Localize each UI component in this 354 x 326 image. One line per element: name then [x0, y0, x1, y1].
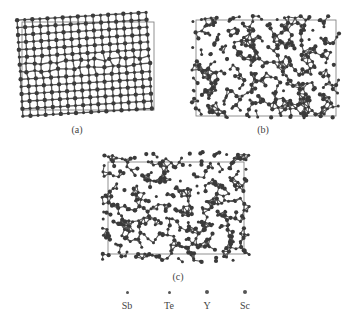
atom	[104, 102, 107, 105]
atom	[54, 31, 57, 34]
atom	[204, 169, 208, 173]
atom	[231, 177, 234, 180]
atom	[107, 20, 110, 23]
atom	[200, 48, 203, 51]
atom	[168, 217, 171, 220]
atom	[309, 73, 312, 76]
atom	[68, 22, 72, 26]
atom	[36, 99, 39, 102]
atom	[301, 73, 304, 76]
atom	[78, 52, 81, 55]
atom	[131, 41, 134, 44]
atom	[302, 50, 305, 53]
atom	[142, 93, 145, 96]
atom	[105, 211, 109, 215]
atom	[210, 201, 214, 205]
atom	[103, 59, 106, 62]
atom	[299, 112, 302, 115]
atom	[319, 36, 322, 39]
atom	[231, 160, 235, 164]
atom	[301, 82, 305, 86]
atom	[84, 21, 88, 25]
atom	[324, 37, 328, 41]
atom	[110, 86, 114, 90]
atom	[27, 77, 30, 80]
atom	[300, 24, 303, 27]
atom	[200, 30, 203, 33]
atom	[236, 156, 240, 160]
atom	[326, 74, 330, 78]
atom	[300, 53, 304, 57]
atom	[287, 15, 290, 18]
te-atom-icon	[168, 291, 171, 294]
atom	[111, 64, 114, 67]
atom	[279, 31, 283, 35]
atom	[233, 183, 237, 187]
atom	[20, 85, 23, 88]
atom	[332, 63, 336, 67]
atom	[229, 89, 233, 93]
atom	[229, 33, 233, 37]
atom	[132, 187, 136, 191]
atom	[301, 58, 304, 61]
atom	[95, 87, 99, 91]
atom	[193, 227, 196, 230]
atom	[24, 70, 28, 74]
atom	[150, 171, 153, 174]
atom	[70, 45, 73, 48]
atom	[104, 109, 108, 113]
atom	[320, 112, 323, 115]
atom	[148, 70, 151, 73]
atom	[178, 229, 181, 232]
atom	[191, 20, 194, 23]
atom	[323, 113, 326, 116]
panel-a-atoms	[12, 10, 164, 122]
atom	[233, 74, 237, 78]
atom	[234, 200, 237, 203]
atom	[169, 178, 172, 181]
atom	[60, 15, 64, 19]
atom	[128, 230, 131, 233]
atom	[106, 12, 110, 16]
atom	[239, 109, 242, 112]
atom	[303, 29, 306, 32]
atom	[224, 211, 227, 214]
atom	[33, 69, 36, 72]
atom	[28, 92, 31, 95]
atom	[66, 97, 69, 100]
atom	[209, 162, 212, 165]
atom	[102, 153, 106, 157]
atom	[30, 17, 34, 21]
atom	[19, 92, 23, 96]
atom	[108, 35, 111, 38]
atom	[106, 228, 109, 231]
atom	[108, 171, 112, 175]
atom	[296, 103, 300, 107]
atom	[187, 224, 191, 228]
atom	[328, 81, 331, 84]
atom	[93, 43, 97, 47]
atom	[54, 38, 58, 42]
atom	[239, 197, 242, 200]
atom	[189, 164, 192, 167]
atom	[191, 242, 195, 246]
atom	[138, 56, 142, 60]
atom	[212, 24, 215, 27]
atom	[73, 89, 76, 92]
atom	[46, 31, 50, 35]
atom	[133, 174, 136, 177]
atom	[331, 87, 335, 91]
atom	[329, 101, 333, 105]
atom	[247, 233, 250, 236]
atom	[323, 96, 326, 99]
atom	[17, 48, 21, 52]
atom	[58, 90, 61, 93]
atom	[245, 38, 249, 42]
atom	[126, 100, 130, 104]
atom	[306, 97, 310, 101]
atom	[79, 73, 83, 77]
atom	[314, 51, 317, 54]
atom	[214, 21, 217, 24]
atom	[110, 72, 114, 76]
atom	[171, 217, 174, 220]
